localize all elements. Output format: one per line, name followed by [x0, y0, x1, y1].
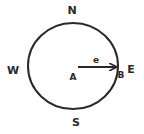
label-west: W	[7, 64, 19, 77]
label-north: N	[67, 4, 76, 17]
label-point-b: B	[118, 70, 125, 80]
label-east: E	[127, 63, 135, 76]
label-point-a: A	[70, 72, 77, 82]
compass-diagram: N S W E A B e	[0, 0, 144, 134]
label-vector-e: e	[93, 55, 99, 65]
label-south: S	[72, 116, 80, 129]
